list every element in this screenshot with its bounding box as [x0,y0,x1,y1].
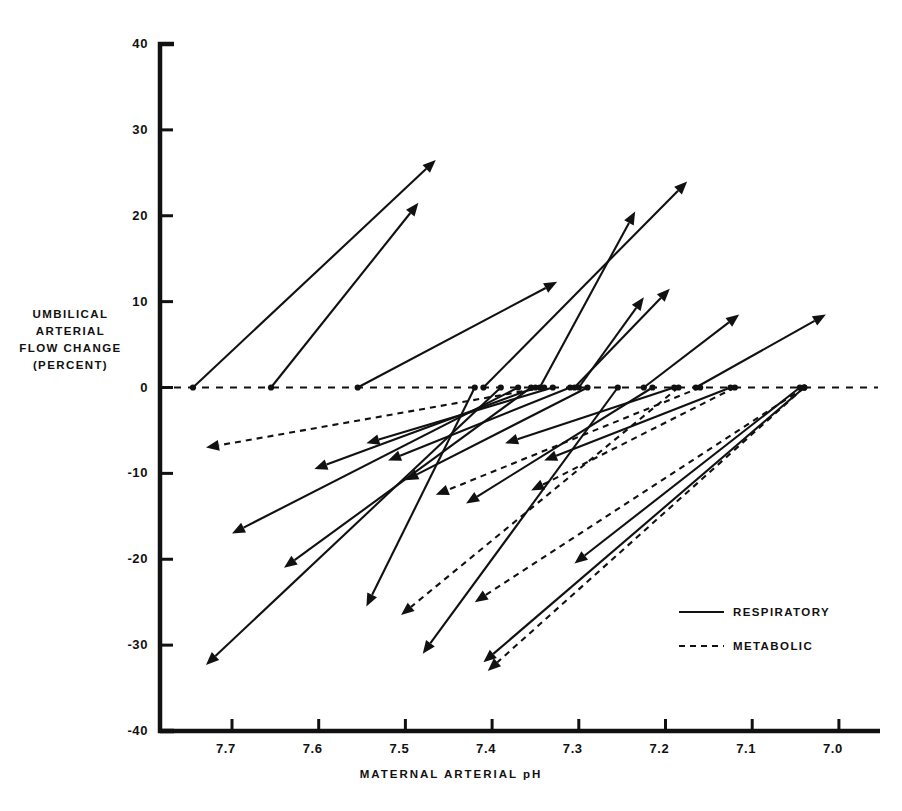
arrow-head-icon [531,480,545,491]
arrow-shaft [358,288,546,388]
legend-label-metabolic: METABOLIC [733,640,813,652]
arrow-shaft [644,322,729,387]
x-tick-label: 7.3 [563,741,583,756]
arrow-shaft [497,388,804,663]
arrow-shaft [379,388,553,440]
arrow-tail-point [472,384,478,390]
data-arrow [401,384,682,615]
arrow-shaft [543,388,735,485]
y-tick-label: 0 [106,380,148,395]
arrow-head-icon [314,460,328,470]
y-axis-title-line: ARTERIAL [8,323,133,340]
y-tick-label: -40 [106,723,148,738]
y-tick-label: 20 [106,208,148,223]
data-arrow [574,384,803,563]
arrow-head-icon [436,485,450,495]
x-tick-label: 7.5 [389,741,409,756]
arrow-shaft [411,388,678,607]
data-arrow [480,181,687,390]
x-tick-label: 7.6 [303,741,323,756]
arrow-series-group [190,160,826,671]
arrow-tail-point [732,384,738,390]
arrow-shaft [215,388,500,656]
arrow-tail-point [268,384,274,390]
arrow-head-icon [366,434,380,444]
data-arrow [232,384,521,533]
arrow-head-icon [466,492,480,503]
arrow-tail-point [355,384,361,390]
arrow-head-icon [505,434,519,444]
arrow-head-icon [475,591,489,603]
x-tick-label: 7.0 [823,741,843,756]
arrow-tail-point [697,384,703,390]
arrow-tail-point [550,384,556,390]
arrow-tail-point [498,384,504,390]
x-axis-title: MATERNAL ARTERIAL pH [0,768,902,780]
data-arrow [641,315,739,391]
data-arrow [483,384,807,662]
arrow-shaft [483,191,678,388]
arrow-head-icon [544,451,558,461]
x-tick-label: 7.1 [736,741,756,756]
arrow-tail-point [649,384,655,390]
data-arrow [488,384,808,670]
x-tick-label: 7.2 [650,741,670,756]
x-tick-label: 7.4 [476,741,496,756]
y-axis-title: UMBILICALARTERIALFLOW CHANGE(PERCENT) [8,306,133,374]
legend-marks-group [679,612,724,646]
arrow-tail-point [615,384,621,390]
legend-label-respiratory: RESPIRATORY [733,606,830,618]
arrow-shaft [585,388,800,556]
y-axis-title-line: (PERCENT) [8,357,133,374]
data-arrow [190,160,436,391]
y-tick-label: 30 [106,122,148,137]
chart-figure: 7.77.67.57.47.37.27.17.0 403020100-10-20… [0,0,902,811]
arrow-tail-point [675,384,681,390]
arrow-tail-point [801,384,807,390]
data-arrow [355,282,558,391]
arrow-shaft [486,388,805,596]
arrow-tail-point [584,384,590,390]
arrow-tail-point [190,384,196,390]
arrow-tail-point [541,384,547,390]
y-tick-label: -20 [106,551,148,566]
arrow-shaft [579,308,636,388]
arrow-tail-point [641,384,647,390]
arrow-shaft [517,388,674,440]
arrow-head-icon [423,640,435,654]
data-arrow [537,211,635,390]
y-tick-label: 40 [106,36,148,51]
arrow-tail-point [515,384,521,390]
arrow-shaft [696,321,815,388]
arrow-shaft [193,169,426,388]
y-axis-title-line: FLOW CHANGE [8,340,133,357]
arrow-tail-point [567,384,573,390]
arrow-head-icon [574,551,588,563]
arrow-head-icon [284,556,298,568]
arrow-shaft [271,213,410,387]
arrow-head-icon [206,440,220,451]
arrow-shaft [540,223,629,388]
arrow-tail-point [480,384,486,390]
data-arrow [576,297,644,390]
y-tick-label: -30 [106,637,148,652]
data-arrow [693,315,826,391]
x-tick-label: 7.7 [216,741,236,756]
arrow-head-icon [726,315,740,327]
arrow-head-icon [632,297,644,311]
y-axis-title-line: UMBILICAL [8,306,133,323]
y-tick-label: -10 [106,465,148,480]
